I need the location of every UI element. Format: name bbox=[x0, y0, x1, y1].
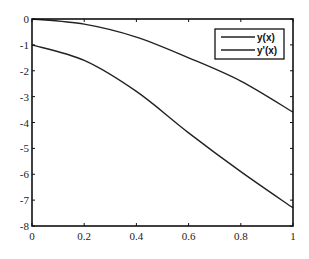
x-tick-label: 0.2 bbox=[77, 230, 91, 242]
y-tick-label: 0 bbox=[24, 13, 30, 25]
x-tick-label: 0 bbox=[29, 230, 35, 242]
y-tick-label: -5 bbox=[20, 142, 30, 154]
legend-label-y: y(x) bbox=[257, 32, 275, 43]
y-tick-label: -8 bbox=[20, 220, 30, 232]
y-tick-label: -1 bbox=[20, 39, 29, 51]
line-chart: 00.20.40.60.81 0-1-2-3-4-5-6-7-8 y(x) y'… bbox=[0, 0, 309, 259]
legend-label-yprime: y'(x) bbox=[257, 45, 277, 56]
y-tick-label: -7 bbox=[20, 194, 30, 206]
series-line-1 bbox=[32, 45, 293, 208]
y-tick-label: -6 bbox=[20, 168, 30, 180]
x-tick-label: 0.4 bbox=[130, 230, 144, 242]
y-tick-label: -4 bbox=[20, 117, 30, 129]
x-tick-label: 0.6 bbox=[182, 230, 196, 242]
legend: y(x) y'(x) bbox=[215, 29, 284, 59]
y-tick-label: -3 bbox=[20, 91, 30, 103]
x-tick-label: 1 bbox=[290, 230, 296, 242]
y-tick-label: -2 bbox=[20, 65, 29, 77]
x-tick-label: 0.8 bbox=[234, 230, 248, 242]
